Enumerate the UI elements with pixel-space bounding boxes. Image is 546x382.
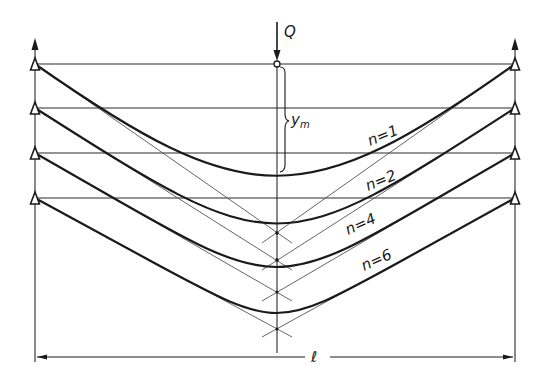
span-arrow-left-icon [37,355,47,360]
sag-label: ym [290,111,310,130]
load-node [274,61,280,67]
span-arrow-right-icon [503,355,513,360]
curve-n6 [35,198,515,313]
cable-deflection-diagram: Q ym n=1 n=2 n=4 n=6 ℓ [0,0,546,382]
sag-dimension: ym [280,67,310,172]
point-load: Q [274,22,297,67]
deflection-curves [35,64,515,313]
chord-lines [35,64,515,198]
right-up-arrow-icon [512,38,519,50]
span-label: ℓ [310,348,317,366]
label-n1: n=1 [365,121,401,150]
tangent-lines [35,64,515,337]
sag-brace-icon [280,67,289,172]
left-up-arrow-icon [32,38,39,50]
label-n6: n=6 [358,245,394,274]
span-dimension: ℓ [37,348,513,366]
load-arrow-icon [274,50,281,61]
load-label: Q [284,23,296,41]
support-symbols [31,58,520,204]
curve-n1 [35,64,515,176]
curve-n4 [35,153,515,267]
curve-n2 [35,108,515,224]
